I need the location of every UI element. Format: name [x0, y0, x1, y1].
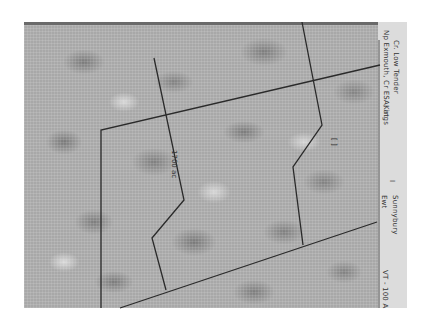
panel-text-4: I: [388, 180, 396, 182]
panel-text-6: Ewt: [380, 195, 388, 209]
panel-text-3: Cr. Low Tender: [392, 40, 400, 94]
panel-text-7: VT - 100 A: [381, 270, 389, 308]
boundary-lines: [0, 0, 428, 322]
left-interior-boundary: [152, 58, 184, 290]
parcel-outer-boundary: [101, 65, 380, 308]
parcel-bottom-boundary: [120, 222, 377, 308]
parcel-label-left: 1700 ac: [170, 150, 178, 178]
panel-text-2: Np Exmouth, Cr ESA, at: [382, 30, 390, 117]
parcel-label-right: [ ]: [330, 138, 338, 146]
right-interior-boundary: [293, 22, 322, 245]
panel-text-5: Sunnybury: [391, 195, 399, 235]
